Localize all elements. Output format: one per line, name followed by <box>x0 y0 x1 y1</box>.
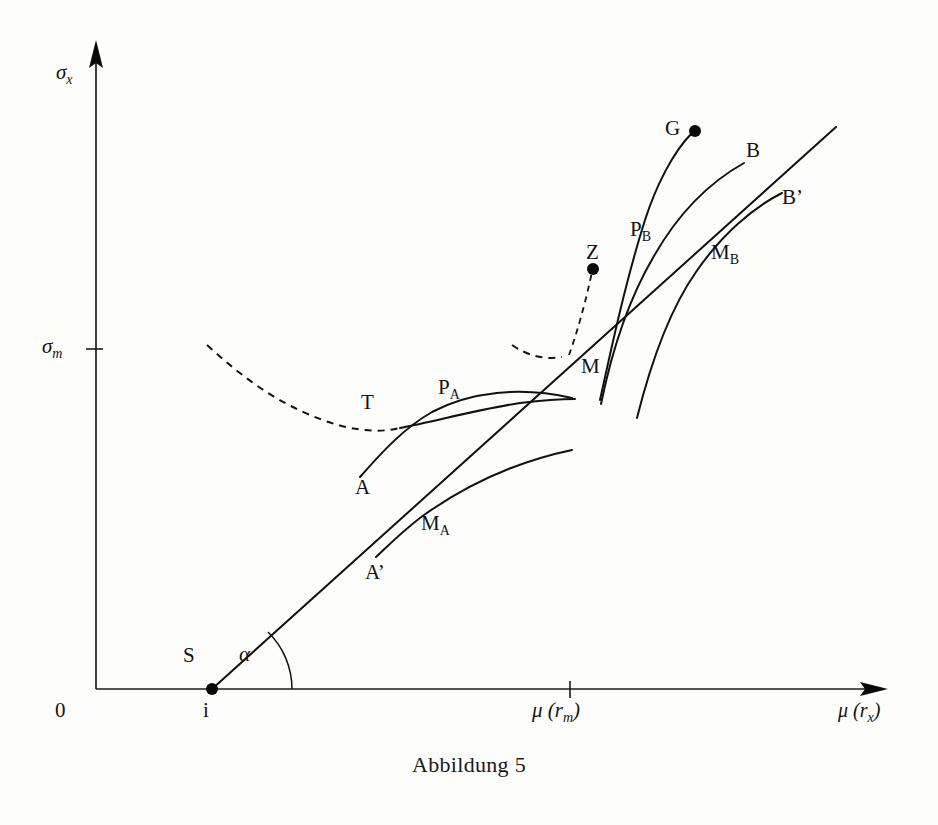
curve-T-group <box>400 399 575 428</box>
curve-A-path <box>360 392 572 477</box>
curve-A-prime-group <box>376 450 572 557</box>
label-Z: Z <box>586 242 599 263</box>
curve-B-path <box>601 163 744 404</box>
curve-B-group <box>601 163 744 404</box>
y-axis-label: σx <box>56 62 73 87</box>
curve-B-prime-path <box>637 193 782 418</box>
diagram-canvas <box>0 0 938 825</box>
label-T: T <box>361 392 374 413</box>
point-i-dot <box>206 683 218 695</box>
x-tick-label-mu-rm: μ (rm) <box>532 700 580 725</box>
origin-label: 0 <box>55 700 66 721</box>
label-alpha: α <box>239 644 250 665</box>
curve-T-path <box>400 399 575 428</box>
label-A-prime: A’ <box>365 562 385 583</box>
label-P-B: PB <box>630 219 651 244</box>
angle-alpha-arc <box>268 632 292 689</box>
dashed-frontier-right-lower <box>512 345 562 358</box>
label-G: G <box>665 118 680 139</box>
dashed-frontier-left-group <box>207 345 400 431</box>
dashed-segment-to-Z <box>569 272 592 355</box>
curve-A-prime-path <box>376 450 572 557</box>
x-tick-label-i: i <box>203 700 209 721</box>
label-M: M <box>581 356 600 377</box>
figure-caption: Abbildung 5 <box>0 752 938 778</box>
label-B-prime: B’ <box>782 187 803 208</box>
curve-B-prime-group <box>637 193 782 418</box>
y-tick-label-sigma-m: σm <box>42 336 62 361</box>
curve-G-path <box>600 133 692 400</box>
dashed-frontier-left <box>207 345 400 431</box>
point-G-dot <box>689 125 701 137</box>
label-M-A: MA <box>421 513 450 538</box>
label-P-A: PA <box>438 377 460 402</box>
dashed-frontier-right-group <box>512 263 599 358</box>
point-Z-dot <box>587 263 599 275</box>
x-axis-label: μ (rx) <box>838 700 880 725</box>
capital-market-line <box>212 127 836 689</box>
label-A: A <box>355 477 370 498</box>
label-S: S <box>183 645 195 666</box>
axes-group <box>86 40 888 698</box>
curve-A-group <box>360 392 572 477</box>
label-M-B: MB <box>711 242 739 267</box>
capital-market-line-group <box>206 127 836 695</box>
label-B: B <box>746 140 760 161</box>
figure-container: σx σm 0 i μ (rm) μ (rx) S α T A A’ PA MA… <box>0 0 938 825</box>
